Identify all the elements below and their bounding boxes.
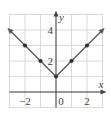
y-axis-label: y xyxy=(58,11,64,23)
x-tick-label: 2 xyxy=(84,95,90,107)
data-point xyxy=(69,59,73,63)
data-point xyxy=(54,74,58,78)
x-axis-label: x xyxy=(98,78,104,90)
data-point xyxy=(23,43,27,47)
y-tick-label: 2 xyxy=(48,55,54,67)
axes xyxy=(10,11,107,108)
y-axis-arrow-icon xyxy=(54,11,59,17)
tick-labels: −20224 xyxy=(19,24,90,107)
graph: −20224 x y xyxy=(0,0,111,125)
data-point xyxy=(85,43,89,47)
data-point xyxy=(38,59,42,63)
y-tick-label: 4 xyxy=(48,24,54,36)
x-tick-label: −2 xyxy=(19,95,31,107)
x-tick-label: 0 xyxy=(58,95,64,107)
x-axis-arrow-icon xyxy=(101,90,107,95)
